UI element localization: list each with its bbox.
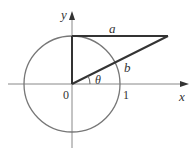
origin-label: 0 [63, 88, 69, 102]
y-axis-arrow-icon [69, 11, 75, 20]
segment-a-label: a [109, 21, 116, 36]
diagram-canvas: y x 0 1 a b θ [0, 0, 195, 158]
angle-theta-label: θ [95, 73, 101, 87]
unit-circle-figure: y x 0 1 a b θ [0, 0, 195, 158]
segment-b-label: b [124, 60, 131, 75]
angle-arc [88, 76, 90, 84]
x-axis-label: x [178, 89, 185, 104]
x-axis-arrow-icon [180, 81, 189, 87]
y-axis-label: y [59, 7, 67, 22]
unit-tick-label: 1 [123, 88, 129, 102]
